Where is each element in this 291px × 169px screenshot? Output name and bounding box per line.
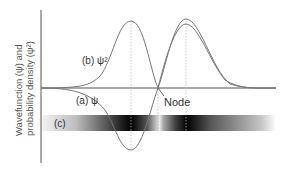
label-b-psi-squared: (b) ψ²	[82, 55, 108, 66]
label-c-band: (c)	[54, 118, 66, 129]
node-pointer-line	[158, 88, 164, 96]
probability-density-band	[41, 115, 276, 131]
psi-squared-curve	[41, 19, 276, 88]
node-label: Node	[164, 96, 190, 108]
wavefunction-diagram: Wavefunction (ψ) and probability density…	[0, 0, 291, 169]
y-axis-label-line2: probability density (ψ²)	[24, 41, 35, 136]
label-a-psi: (a) ψ	[76, 95, 98, 106]
y-axis-label-line1: Wavefunction (ψ) and	[13, 45, 24, 136]
